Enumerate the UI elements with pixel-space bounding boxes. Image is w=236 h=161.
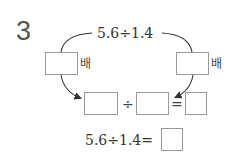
top-expression: 5.6÷1.4 <box>97 26 153 40</box>
left-multiplier-box[interactable] <box>45 52 78 75</box>
right-multiplier-box[interactable] <box>176 52 209 75</box>
divide-symbol: ÷ <box>122 97 134 111</box>
left-multiplier-unit: 배 <box>80 58 91 70</box>
quotient-box[interactable] <box>185 92 207 115</box>
right-multiplier-unit: 배 <box>211 58 222 70</box>
final-answer-box[interactable] <box>161 128 183 151</box>
divisor-box[interactable] <box>136 92 169 115</box>
top-right-curve <box>162 33 192 52</box>
equals-symbol: = <box>171 97 183 111</box>
dividend-box[interactable] <box>84 92 118 115</box>
bottom-expression: 5.6÷1.4= <box>85 133 153 147</box>
left-arrow <box>61 75 80 98</box>
top-left-curve <box>61 33 92 52</box>
